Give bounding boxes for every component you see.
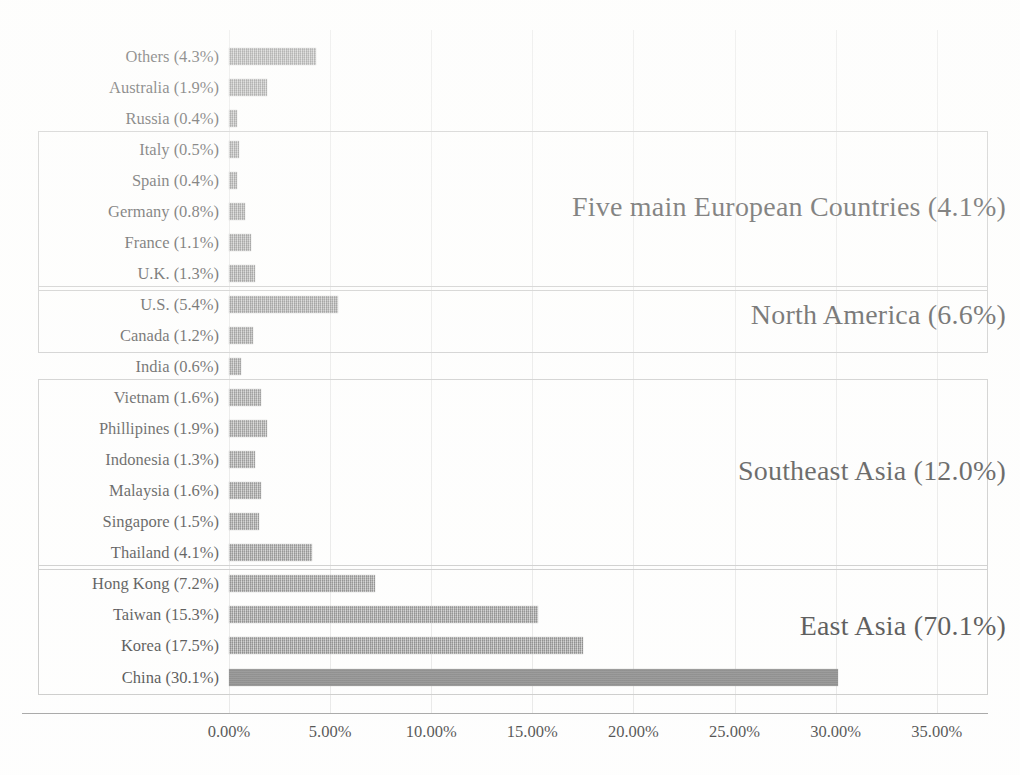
bar-category-label: Korea (17.5%) [0, 630, 219, 661]
bar-category-label: Malaysia (1.6%) [0, 475, 219, 506]
bar-row: Korea (17.5%) [0, 630, 1020, 661]
bar [229, 544, 312, 561]
bar [229, 669, 838, 686]
bar [229, 358, 241, 375]
bar [229, 575, 375, 592]
bar-row: Canada (1.2%) [0, 320, 1020, 351]
bar-row: Taiwan (15.3%) [0, 599, 1020, 630]
bar-category-label: U.S. (5.4%) [0, 289, 219, 320]
horizontal-bar-chart: Five main European Countries (4.1%)North… [0, 0, 1020, 775]
bar-category-label: Australia (1.9%) [0, 72, 219, 103]
bar-category-label: Germany (0.8%) [0, 196, 219, 227]
bar-row: Spain (0.4%) [0, 165, 1020, 196]
bar-category-label: Others (4.3%) [0, 41, 219, 72]
bar-row: U.S. (5.4%) [0, 289, 1020, 320]
bar-category-label: Phillipines (1.9%) [0, 413, 219, 444]
bar-row: Phillipines (1.9%) [0, 413, 1020, 444]
bar-row: U.K. (1.3%) [0, 258, 1020, 289]
bar-category-label: Thailand (4.1%) [0, 537, 219, 568]
bar-row: Others (4.3%) [0, 41, 1020, 72]
bar [229, 141, 239, 158]
bar [229, 296, 338, 313]
bar-category-label: Singapore (1.5%) [0, 506, 219, 537]
bar [229, 48, 316, 65]
bar-row: Thailand (4.1%) [0, 537, 1020, 568]
bar-row: Indonesia (1.3%) [0, 444, 1020, 475]
bar-category-label: Taiwan (15.3%) [0, 599, 219, 630]
bar-row: China (30.1%) [0, 662, 1020, 693]
x-tick-label: 35.00% [877, 722, 997, 742]
bar [229, 606, 538, 623]
bar-row: Hong Kong (7.2%) [0, 568, 1020, 599]
bar-row: India (0.6%) [0, 351, 1020, 382]
bar-category-label: Vietnam (1.6%) [0, 382, 219, 413]
bar-row: France (1.1%) [0, 227, 1020, 258]
bar-category-label: China (30.1%) [0, 662, 219, 693]
x-axis-line [22, 713, 988, 714]
bar [229, 265, 255, 282]
bar [229, 637, 583, 654]
bar-category-label: France (1.1%) [0, 227, 219, 258]
bar-category-label: Canada (1.2%) [0, 320, 219, 351]
bar [229, 389, 261, 406]
bar [229, 234, 251, 251]
bar [229, 451, 255, 468]
bar [229, 203, 245, 220]
bar [229, 513, 259, 530]
bar-row: Italy (0.5%) [0, 134, 1020, 165]
bar [229, 482, 261, 499]
bar-category-label: Indonesia (1.3%) [0, 444, 219, 475]
bar-category-label: U.K. (1.3%) [0, 258, 219, 289]
bar-row: Russia (0.4%) [0, 103, 1020, 134]
bar-row: Germany (0.8%) [0, 196, 1020, 227]
bar-category-label: Spain (0.4%) [0, 165, 219, 196]
bar-category-label: Russia (0.4%) [0, 103, 219, 134]
bar-category-label: Hong Kong (7.2%) [0, 568, 219, 599]
bar [229, 420, 267, 437]
bar-row: Australia (1.9%) [0, 72, 1020, 103]
bar [229, 79, 267, 96]
bar-row: Malaysia (1.6%) [0, 475, 1020, 506]
bar [229, 172, 237, 189]
bar [229, 110, 237, 127]
plot-area: Five main European Countries (4.1%)North… [0, 0, 1020, 775]
bar-row: Vietnam (1.6%) [0, 382, 1020, 413]
bar-category-label: India (0.6%) [0, 351, 219, 382]
bar [229, 327, 253, 344]
bar-category-label: Italy (0.5%) [0, 134, 219, 165]
bar-row: Singapore (1.5%) [0, 506, 1020, 537]
